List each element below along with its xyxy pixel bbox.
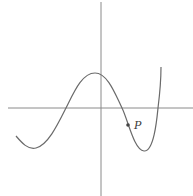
function-graph: P — [0, 0, 193, 196]
point-p-label: P — [133, 119, 142, 132]
point-p-marker — [126, 123, 130, 127]
function-curve — [16, 67, 161, 151]
